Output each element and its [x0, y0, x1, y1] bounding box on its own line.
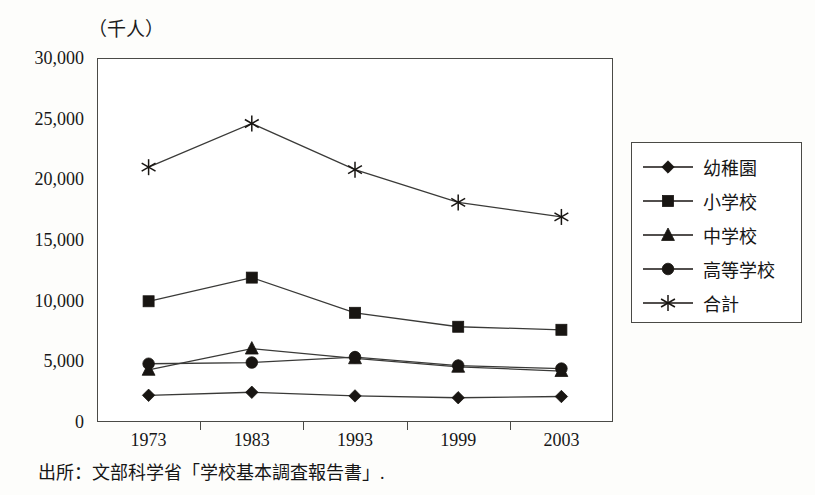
- chart-legend: 幼稚園小学校中学校高等学校合計: [631, 142, 802, 323]
- plot-series-layer: [97, 58, 613, 422]
- legend-marker-star-icon: [641, 293, 695, 313]
- x-axis-tick-label: 2003: [543, 430, 579, 451]
- data-point-marker-diamond: [349, 390, 361, 402]
- legend-item-5[interactable]: 合計: [632, 286, 801, 320]
- y-axis-tick-label: 0: [75, 412, 84, 433]
- legend-label: 小学校: [703, 188, 757, 214]
- x-axis-tick-label: 1973: [131, 430, 167, 451]
- y-axis-tick-label: 25,000: [35, 108, 85, 129]
- y-axis-tick-label: 5,000: [44, 351, 85, 372]
- data-point-marker-circle: [143, 358, 155, 370]
- legend-marker-circle-icon: [641, 259, 695, 279]
- legend-label: 幼稚園: [703, 154, 757, 180]
- legend-item-4[interactable]: 高等学校: [632, 252, 801, 286]
- data-point-marker-triangle: [245, 342, 258, 354]
- data-point-marker-circle: [246, 357, 258, 369]
- series-2-markers: [143, 272, 567, 335]
- data-point-marker-star: [348, 162, 362, 178]
- data-point-marker-square: [453, 321, 464, 332]
- legend-marker-triangle-icon: [641, 225, 695, 245]
- data-point-marker-diamond: [452, 392, 464, 404]
- y-axis-tick-label: 10,000: [35, 290, 85, 311]
- legend-label: 中学校: [703, 222, 757, 248]
- x-axis-tick-mark: [510, 422, 511, 430]
- data-point-marker-circle: [349, 351, 361, 363]
- data-point-marker-star: [554, 209, 568, 225]
- legend-item-2[interactable]: 小学校: [632, 184, 801, 218]
- series-line: [149, 278, 562, 330]
- enrollment-line-chart-figure: （千人） 05,00010,00015,00020,00025,00030,00…: [0, 0, 815, 495]
- y-axis-tick-label: 30,000: [35, 48, 85, 69]
- y-axis-tick-label: 15,000: [35, 230, 85, 251]
- x-axis-tick-mark: [200, 422, 201, 430]
- x-axis-tick-label: 1993: [337, 430, 373, 451]
- data-point-marker-square: [143, 296, 154, 307]
- data-point-marker-circle: [556, 363, 568, 375]
- data-point-marker-star: [245, 116, 259, 132]
- legend-label: 高等学校: [703, 256, 775, 282]
- data-point-marker-diamond: [246, 386, 258, 398]
- data-point-marker-diamond: [555, 390, 567, 402]
- data-point-marker-star: [142, 159, 156, 175]
- legend-item-3[interactable]: 中学校: [632, 218, 801, 252]
- legend-item-1[interactable]: 幼稚園: [632, 150, 801, 184]
- legend-label: 合計: [703, 290, 739, 316]
- x-axis-tick-mark: [407, 422, 408, 430]
- series-2: [149, 278, 562, 330]
- data-point-marker-square: [556, 324, 567, 335]
- data-point-marker-square: [246, 272, 257, 283]
- y-axis-unit-label: （千人）: [88, 14, 164, 41]
- series-1-markers: [142, 386, 567, 404]
- x-axis-tick-mark: [303, 422, 304, 430]
- y-axis-tick-label-group: 05,00010,00015,00020,00025,00030,000: [0, 0, 90, 495]
- legend-marker-square-icon: [641, 191, 695, 211]
- data-point-marker-circle: [452, 360, 464, 372]
- y-axis-tick-label: 20,000: [35, 169, 85, 190]
- x-axis-tick-label: 1983: [234, 430, 270, 451]
- source-note: 出所：文部科学省「学校基本調査報告書」.: [38, 458, 385, 484]
- legend-marker-diamond-icon: [641, 157, 695, 177]
- data-point-marker-square: [350, 307, 361, 318]
- x-axis-tick-label-group: 19731983199319992003: [97, 430, 613, 460]
- data-point-marker-star: [451, 194, 465, 210]
- data-point-marker-diamond: [142, 389, 154, 401]
- x-axis-tick-label: 1999: [440, 430, 476, 451]
